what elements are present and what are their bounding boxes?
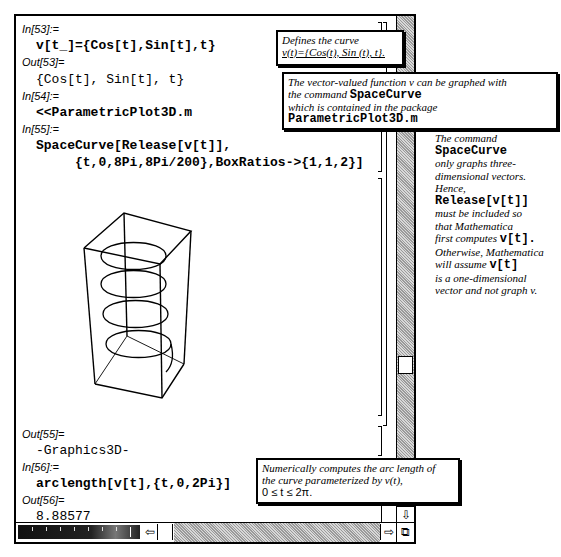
annotation-text: vector and not graph v. xyxy=(435,284,559,297)
annotation-code: v[t] xyxy=(489,258,518,272)
annotation-text: dimensional vectors. xyxy=(435,170,559,183)
annotation-text: will assume xyxy=(435,258,487,270)
input-cell-54[interactable]: <<ParametricPlot3D.m xyxy=(36,105,192,120)
annotation-arclength: Numerically computes the arc length of t… xyxy=(256,458,460,504)
graphics-cell-bracket[interactable] xyxy=(378,178,382,416)
annotation-text: must be included so xyxy=(435,207,559,220)
vertical-scroll-thumb[interactable] xyxy=(398,356,413,374)
cell-bracket[interactable] xyxy=(378,426,382,456)
annotation-text: that Mathematica xyxy=(435,220,559,233)
annotation-code: SpaceCurve xyxy=(435,145,559,158)
annotation-text: only graphs three- xyxy=(435,157,559,170)
annotation-code: SpaceCurve xyxy=(350,88,422,102)
annotation-text: v(t)={Cos(t), Sin (t), t}. xyxy=(282,46,398,58)
input-cell-55-line1[interactable]: SpaceCurve[Release[v[t]], xyxy=(36,138,231,153)
annotation-text: Hence, xyxy=(435,182,559,195)
scroll-right-arrow-icon[interactable]: ⇨ xyxy=(380,524,396,540)
annotation-text: 0 ≤ t ≤ 2π. xyxy=(262,486,454,498)
annotation-text: the command xyxy=(288,88,347,100)
annotation-text: The command xyxy=(435,132,559,145)
output-cell-53[interactable]: {Cos[t], Sin[t], t} xyxy=(36,72,184,87)
helix-3d-graphic[interactable] xyxy=(46,196,196,416)
input-cell-53[interactable]: v[t_]={Cos[t],Sin[t],t} xyxy=(36,38,215,53)
annotation-text: is a one-dimensional xyxy=(435,272,559,285)
annotation-defines-curve: Defines the curve v(t)={Cos(t), Sin (t),… xyxy=(276,30,404,66)
cell-label-in55: In[55]:= xyxy=(22,123,59,135)
resize-box-icon[interactable]: ⧉ xyxy=(396,523,414,542)
output-cell-55[interactable]: -Graphics3D- xyxy=(36,443,130,458)
cell-label-out56: Out[56]= xyxy=(22,494,65,506)
cell-label-in53: In[53]:= xyxy=(22,23,59,35)
annotation-release-explanation: The command SpaceCurve only graphs three… xyxy=(435,132,559,297)
annotation-code: Release[v[t]] xyxy=(435,195,559,208)
annotation-text: first computes xyxy=(435,232,497,244)
annotation-text: Defines the curve xyxy=(282,34,398,46)
annotation-code: v[t]. xyxy=(500,232,536,246)
horizontal-scroll-track[interactable] xyxy=(174,523,380,542)
annotation-text: The vector-valued function v can be grap… xyxy=(288,76,552,88)
cell-label-in56: In[56]:= xyxy=(22,461,59,473)
horizontal-scrollbar[interactable]: ⇦ ⇨ ⧉ xyxy=(16,522,414,542)
annotation-text: Otherwise, Mathematica xyxy=(435,246,559,259)
group-bracket[interactable] xyxy=(383,122,387,426)
cell-label-in54: In[54]:= xyxy=(22,90,59,102)
cell-label-out53: Out[53]= xyxy=(22,56,65,68)
cell-label-out55: Out[55]= xyxy=(22,428,65,440)
annotation-vector-valued: The vector-valued function v can be grap… xyxy=(282,72,558,130)
input-cell-56[interactable]: arclength[v[t],{t,0,2Pi}] xyxy=(36,476,231,491)
scroll-left-arrow-icon[interactable]: ⇦ xyxy=(142,524,158,540)
annotation-text: the curve parameterized by v(t), xyxy=(262,474,454,486)
annotation-text: Numerically computes the arc length of xyxy=(262,462,454,474)
input-cell-55-line2[interactable]: {t,0,8Pi,8Pi/200},BoxRatios->{1,1,2}] xyxy=(36,155,364,170)
horizontal-scroll-thumb[interactable] xyxy=(159,524,173,540)
annotation-code: ParametricPlot3D.m xyxy=(288,113,552,125)
magnification-ruler[interactable] xyxy=(18,525,140,539)
